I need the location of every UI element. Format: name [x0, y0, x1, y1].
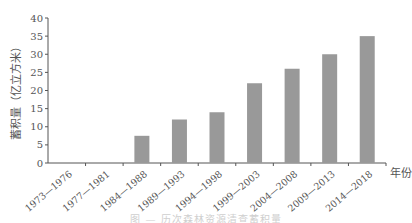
y-tick-label: 10	[30, 121, 43, 132]
y-tick-label: 35	[30, 31, 43, 42]
y-tick-label: 30	[30, 49, 43, 60]
bar	[322, 54, 337, 163]
bar	[247, 83, 262, 163]
y-tick-label: 40	[30, 13, 43, 24]
y-tick-label: 25	[30, 67, 43, 78]
y-axis-label: 蓄积量（亿立方米）	[9, 41, 23, 140]
bar	[285, 69, 300, 163]
x-axis-label: 年份	[390, 166, 412, 180]
bar-chart: 05101520253035401973—19761977—19811984—1…	[0, 0, 412, 223]
figure-caption: 图 — 历次森林资源清查蓄积量	[0, 211, 412, 223]
y-tick-label: 20	[30, 85, 43, 96]
bar	[360, 36, 375, 163]
y-tick-label: 5	[37, 139, 43, 150]
bar	[210, 112, 225, 163]
bar	[134, 136, 149, 163]
y-tick-label: 15	[30, 103, 43, 114]
y-tick-label: 0	[37, 158, 43, 169]
bar	[172, 120, 187, 164]
